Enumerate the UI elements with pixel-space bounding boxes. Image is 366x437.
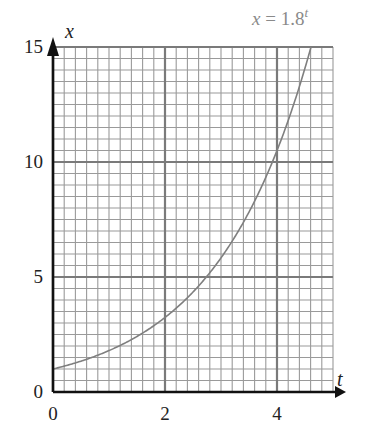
- y-tick-label: 10: [24, 151, 43, 172]
- exponential-chart: 024051015 x t x = 1.8t: [0, 0, 366, 437]
- axes: [47, 37, 346, 398]
- y-tick-label: 0: [34, 381, 44, 402]
- y-tick-label: 5: [34, 266, 44, 287]
- x-tick-label: 4: [272, 403, 282, 424]
- y-axis-label: x: [64, 20, 74, 42]
- x-tick-label: 2: [160, 403, 170, 424]
- x-tick-label: 0: [48, 403, 58, 424]
- annotation-eq: = 1.8: [260, 8, 304, 29]
- grid-minor-lines: [53, 47, 333, 392]
- curve-annotation: x = 1.8t: [251, 5, 308, 29]
- x-axis-label: t: [337, 368, 343, 390]
- annotation-exponent: t: [304, 5, 308, 20]
- y-tick-label: 15: [24, 36, 43, 57]
